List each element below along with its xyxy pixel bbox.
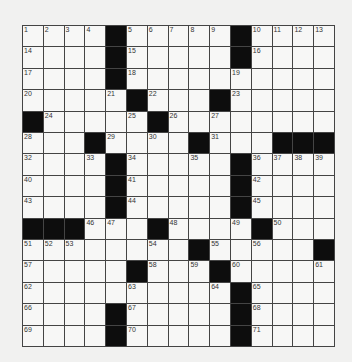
- grid-cell[interactable]: 12: [293, 26, 313, 46]
- grid-cell[interactable]: [106, 261, 126, 281]
- grid-cell[interactable]: [273, 90, 293, 110]
- grid-cell[interactable]: [106, 283, 126, 303]
- grid-cell[interactable]: [127, 240, 147, 260]
- grid-cell[interactable]: [85, 326, 105, 346]
- grid-cell[interactable]: 65: [252, 283, 272, 303]
- grid-cell[interactable]: [85, 197, 105, 217]
- grid-cell[interactable]: 24: [44, 112, 64, 132]
- grid-cell[interactable]: [314, 112, 334, 132]
- grid-cell[interactable]: [273, 261, 293, 281]
- grid-cell[interactable]: 25: [127, 112, 147, 132]
- grid-cell[interactable]: [169, 176, 189, 196]
- grid-cell[interactable]: [231, 133, 251, 153]
- grid-cell[interactable]: 67: [127, 304, 147, 324]
- grid-cell[interactable]: 3: [65, 26, 85, 46]
- grid-cell[interactable]: [189, 112, 209, 132]
- grid-cell[interactable]: [44, 283, 64, 303]
- grid-cell[interactable]: [65, 261, 85, 281]
- grid-cell[interactable]: 56: [252, 240, 272, 260]
- grid-cell[interactable]: [65, 283, 85, 303]
- grid-cell[interactable]: [293, 304, 313, 324]
- grid-cell[interactable]: 14: [23, 47, 43, 67]
- grid-cell[interactable]: [65, 69, 85, 89]
- grid-cell[interactable]: [293, 176, 313, 196]
- grid-cell[interactable]: [273, 47, 293, 67]
- grid-cell[interactable]: [189, 176, 209, 196]
- grid-cell[interactable]: [273, 112, 293, 132]
- grid-cell[interactable]: [314, 197, 334, 217]
- grid-cell[interactable]: 36: [252, 154, 272, 174]
- grid-cell[interactable]: 59: [189, 261, 209, 281]
- grid-cell[interactable]: [189, 283, 209, 303]
- grid-cell[interactable]: [85, 261, 105, 281]
- grid-cell[interactable]: 19: [231, 69, 251, 89]
- grid-cell[interactable]: [293, 240, 313, 260]
- grid-cell[interactable]: 26: [169, 112, 189, 132]
- grid-cell[interactable]: [169, 90, 189, 110]
- grid-cell[interactable]: [85, 176, 105, 196]
- grid-cell[interactable]: 15: [127, 47, 147, 67]
- grid-cell[interactable]: [65, 197, 85, 217]
- grid-cell[interactable]: 38: [293, 154, 313, 174]
- grid-cell[interactable]: [273, 197, 293, 217]
- grid-cell[interactable]: 68: [252, 304, 272, 324]
- grid-cell[interactable]: 17: [23, 69, 43, 89]
- grid-cell[interactable]: [65, 326, 85, 346]
- grid-cell[interactable]: 33: [85, 154, 105, 174]
- grid-cell[interactable]: [314, 219, 334, 239]
- grid-cell[interactable]: [273, 176, 293, 196]
- grid-cell[interactable]: 52: [44, 240, 64, 260]
- grid-cell[interactable]: [85, 240, 105, 260]
- grid-cell[interactable]: [65, 90, 85, 110]
- grid-cell[interactable]: 66: [23, 304, 43, 324]
- grid-cell[interactable]: 10: [252, 26, 272, 46]
- grid-cell[interactable]: [169, 154, 189, 174]
- grid-cell[interactable]: 53: [65, 240, 85, 260]
- grid-cell[interactable]: 42: [252, 176, 272, 196]
- grid-cell[interactable]: [85, 69, 105, 89]
- grid-cell[interactable]: 27: [210, 112, 230, 132]
- grid-cell[interactable]: 23: [231, 90, 251, 110]
- grid-cell[interactable]: [44, 133, 64, 153]
- grid-cell[interactable]: 28: [23, 133, 43, 153]
- grid-cell[interactable]: 34: [127, 154, 147, 174]
- grid-cell[interactable]: [252, 133, 272, 153]
- grid-cell[interactable]: [85, 112, 105, 132]
- grid-cell[interactable]: 5: [127, 26, 147, 46]
- grid-cell[interactable]: 20: [23, 90, 43, 110]
- grid-cell[interactable]: [189, 304, 209, 324]
- grid-cell[interactable]: 70: [127, 326, 147, 346]
- grid-cell[interactable]: 31: [210, 133, 230, 153]
- grid-cell[interactable]: 64: [210, 283, 230, 303]
- grid-cell[interactable]: 9: [210, 26, 230, 46]
- grid-cell[interactable]: 46: [85, 219, 105, 239]
- grid-cell[interactable]: 30: [148, 133, 168, 153]
- grid-cell[interactable]: [273, 326, 293, 346]
- grid-cell[interactable]: [210, 197, 230, 217]
- grid-cell[interactable]: [314, 304, 334, 324]
- grid-cell[interactable]: 39: [314, 154, 334, 174]
- grid-cell[interactable]: 50: [273, 219, 293, 239]
- grid-cell[interactable]: 54: [148, 240, 168, 260]
- grid-cell[interactable]: [44, 154, 64, 174]
- grid-cell[interactable]: [210, 154, 230, 174]
- grid-cell[interactable]: [252, 90, 272, 110]
- grid-cell[interactable]: [85, 47, 105, 67]
- grid-cell[interactable]: [44, 69, 64, 89]
- grid-cell[interactable]: [169, 69, 189, 89]
- grid-cell[interactable]: 8: [189, 26, 209, 46]
- grid-cell[interactable]: 21: [106, 90, 126, 110]
- grid-cell[interactable]: 32: [23, 154, 43, 174]
- grid-cell[interactable]: [127, 133, 147, 153]
- grid-cell[interactable]: [231, 240, 251, 260]
- grid-cell[interactable]: 6: [148, 26, 168, 46]
- grid-cell[interactable]: [252, 112, 272, 132]
- grid-cell[interactable]: [169, 47, 189, 67]
- grid-cell[interactable]: [189, 219, 209, 239]
- grid-cell[interactable]: 41: [127, 176, 147, 196]
- grid-cell[interactable]: [169, 283, 189, 303]
- grid-cell[interactable]: [148, 176, 168, 196]
- grid-cell[interactable]: [44, 90, 64, 110]
- grid-cell[interactable]: [273, 304, 293, 324]
- grid-cell[interactable]: 61: [314, 261, 334, 281]
